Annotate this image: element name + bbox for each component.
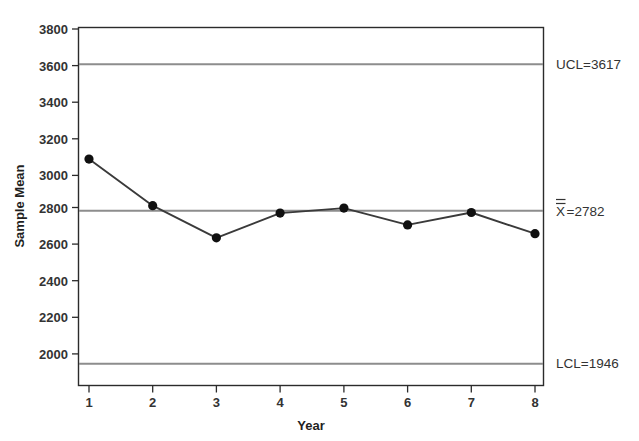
y-tick-label-3000: 3000	[39, 168, 68, 183]
ucl-label: UCL=3617	[556, 57, 621, 72]
data-point-year-8	[530, 229, 539, 238]
data-point-year-1	[84, 155, 93, 164]
y-tick-label-2400: 2400	[39, 274, 68, 289]
data-point-year-7	[467, 208, 476, 217]
x-tick-label-5: 5	[340, 395, 347, 410]
x-tick-label-6: 6	[404, 395, 411, 410]
x-tick-label-1: 1	[85, 395, 92, 410]
data-point-year-6	[403, 220, 412, 229]
x-tick-label-2: 2	[149, 395, 156, 410]
center-label-x-symbol: X	[556, 204, 565, 219]
y-tick-label-2600: 2600	[39, 237, 68, 252]
control-chart: 3800 3600 3400 3200 3000 2800 2600 2400 …	[0, 0, 639, 441]
data-point-year-2	[148, 201, 157, 210]
chart-canvas: 3800 3600 3400 3200 3000 2800 2600 2400 …	[0, 0, 639, 441]
y-tick-label-3600: 3600	[39, 59, 68, 74]
data-point-year-4	[276, 209, 285, 218]
lcl-label: LCL=1946	[556, 356, 619, 371]
x-tick-label-8: 8	[531, 395, 538, 410]
center-label-value: =2782	[567, 204, 605, 219]
x-tick-label-4: 4	[276, 395, 284, 410]
x-tick-label-7: 7	[468, 395, 475, 410]
y-tick-label-2000: 2000	[39, 347, 68, 362]
data-point-year-5	[339, 204, 348, 213]
y-axis-title: Sample Mean	[12, 164, 27, 247]
x-tick-label-3: 3	[213, 395, 220, 410]
data-point-year-3	[212, 233, 221, 242]
y-tick-label-2800: 2800	[39, 201, 68, 216]
y-tick-label-2200: 2200	[39, 310, 68, 325]
y-tick-label-3200: 3200	[39, 132, 68, 147]
y-tick-label-3400: 3400	[39, 95, 68, 110]
x-axis-title: Year	[297, 418, 324, 433]
y-tick-label-3800: 3800	[39, 22, 68, 37]
